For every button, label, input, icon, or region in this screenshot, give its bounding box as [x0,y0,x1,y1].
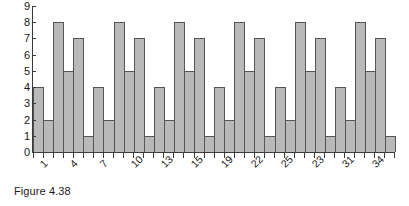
y-axis-tickmark [32,87,36,88]
figure-caption: Figure 4.38 [14,184,71,198]
y-axis-tickmark [32,55,36,56]
bars-container [33,6,395,152]
bar [385,136,396,152]
y-axis-tickmark [32,38,36,39]
y-axis-tick-label: 6 [14,50,30,60]
x-axis-tick-label: 4 [68,158,80,170]
y-axis-tick-label: 5 [14,66,30,76]
y-axis-tick-label: 2 [14,115,30,125]
x-axis-tick-label: 7 [98,158,110,170]
y-axis-tickmark [32,103,36,104]
y-axis-tick-label: 4 [14,82,30,92]
y-axis-tickmark [32,6,36,7]
y-axis-tickmark [32,136,36,137]
y-axis-tickmark [32,71,36,72]
x-axis-tick-label: 1 [38,158,50,170]
y-axis-tick-label: 9 [14,1,30,11]
y-axis-tick-label: 7 [14,33,30,43]
y-axis-tick-label: 1 [14,131,30,141]
y-axis-tickmark [32,22,36,23]
y-axis-tickmark [32,152,36,153]
y-axis-tick-label: 8 [14,17,30,27]
y-axis-tickmark [32,120,36,121]
y-axis-tick-label: 3 [14,98,30,108]
y-axis: 0123456789 [14,6,30,152]
figure-container: 0123456789 147101315192225233134 Figure … [0,0,409,206]
bar-chart: 0123456789 147101315192225233134 [14,6,395,158]
x-axis-labels: 147101315192225233134 [33,158,395,188]
y-axis-tick-label: 0 [14,147,30,157]
